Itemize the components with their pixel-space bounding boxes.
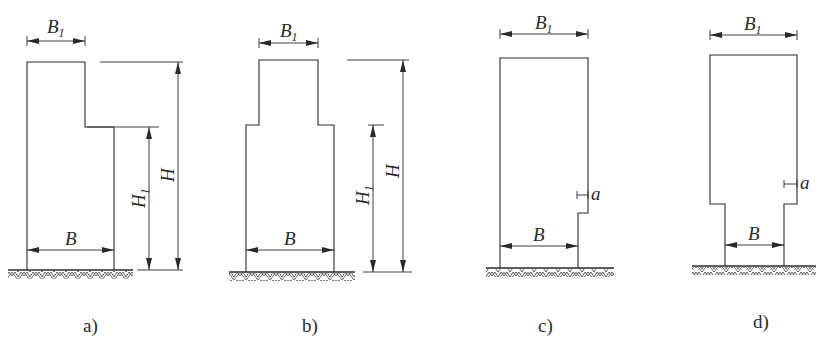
svg-text:H1: H1 [128,188,152,209]
caption-c: c) [538,315,553,337]
h-label: H [157,167,178,183]
b-label: B [748,223,760,244]
svg-text:B1: B1 [744,13,762,37]
panel-a: B1 B H H1 a) [8,16,183,337]
b-label: B [65,228,77,249]
svg-text:B1: B1 [535,12,553,36]
svg-text:B1: B1 [47,16,65,40]
h-label: H [382,163,403,179]
b-label: B [284,228,296,249]
panel-d: B1 B a d) [692,13,816,333]
svg-text:H1: H1 [352,185,376,206]
panel-c: B1 B a c) [486,12,614,337]
ground-hatch [486,269,614,277]
a-label: a [800,172,810,193]
foundation-diagram: B1 B H H1 a) B1 B H H1 b) [0,0,824,355]
ground-hatch [692,267,816,275]
svg-text:B1: B1 [280,20,298,44]
b1-label: B [744,13,756,34]
b1-label: B [47,16,59,37]
a-label: a [591,183,601,204]
b1-label: B [280,20,292,41]
caption-a: a) [83,315,98,337]
caption-b: b) [302,315,318,337]
b1-label: B [535,12,547,33]
ground-hatch [229,273,355,281]
ground-hatch [8,271,133,279]
b-label: B [533,224,545,245]
h1-label: H [352,190,373,206]
panel-b: B1 B H H1 b) [229,20,412,337]
h1-label: H [128,193,149,209]
caption-d: d) [753,311,769,333]
